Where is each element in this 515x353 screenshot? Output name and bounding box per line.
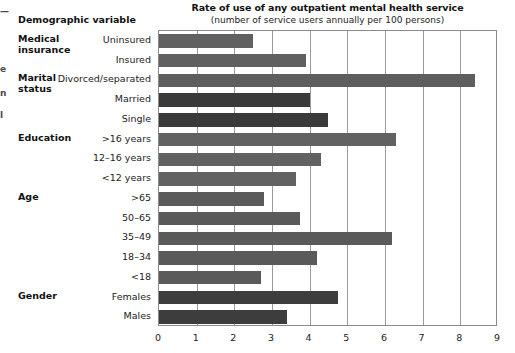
bar [159,212,300,226]
category-label: 12–16 years [0,152,151,163]
bar [159,93,310,107]
category-label: >65 [0,192,151,203]
x-tick-8: 8 [449,332,469,343]
demographic-variable-header: Demographic variable [18,14,136,25]
bar [159,133,396,147]
bar [159,54,306,68]
bar [159,291,338,305]
category-label: Females [0,291,151,302]
x-tick-6: 6 [374,332,394,343]
bar [159,113,328,127]
category-label: 50–65 [0,212,151,223]
edge-fragment-0: — [0,6,9,16]
x-tick-9: 9 [487,332,507,343]
category-label: <18 [0,271,151,282]
chart-rows: Medical insuranceUninsuredInsuredMarital… [0,30,515,326]
bar [159,74,475,88]
category-label: Uninsured [0,34,151,45]
x-tick-4: 4 [299,332,319,343]
bar [159,34,253,48]
category-label: 18–34 [0,251,151,262]
bar [159,271,261,285]
x-tick-1: 1 [186,332,206,343]
bar [159,172,296,186]
category-label: >16 years [0,133,151,144]
category-label: Divorced/separated [0,73,151,84]
x-tick-5: 5 [336,332,356,343]
x-tick-7: 7 [412,332,432,343]
category-label: <12 years [0,172,151,183]
category-label: 35–49 [0,231,151,242]
chart-title: Rate of use of any outpatient mental hea… [155,1,500,14]
x-tick-2: 2 [223,332,243,343]
bar [159,232,392,246]
bar [159,251,317,265]
chart-title-block: Rate of use of any outpatient mental hea… [155,1,500,27]
category-label: Males [0,310,151,321]
bar [159,153,321,167]
chart-row: Males [0,306,515,329]
bar [159,192,264,206]
x-tick-3: 3 [261,332,281,343]
category-label: Insured [0,54,151,65]
x-tick-0: 0 [148,332,168,343]
bar [159,310,287,324]
category-label: Married [0,93,151,104]
category-label: Single [0,113,151,124]
chart-subtitle: (number of service users annually per 10… [155,14,500,27]
x-axis: 0123456789 [0,328,515,353]
